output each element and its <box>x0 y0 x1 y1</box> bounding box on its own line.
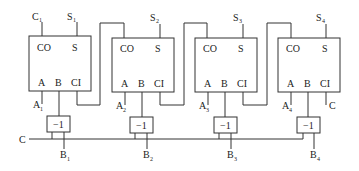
svg-text:4: 4 <box>322 18 325 24</box>
s-port-label: S <box>155 43 161 54</box>
svg-text:3: 3 <box>239 18 242 24</box>
b-port-label: B <box>304 78 311 89</box>
svg-text:1: 1 <box>67 156 70 162</box>
svg-text:1: 1 <box>40 106 43 112</box>
co-port-label: CO <box>203 43 217 54</box>
svg-text:4: 4 <box>289 107 292 113</box>
co-port-label: CO <box>286 43 300 54</box>
svg-text:2: 2 <box>150 156 153 162</box>
b2-input-label: B <box>143 149 150 160</box>
svg-text:3: 3 <box>206 107 209 113</box>
b-port-label: B <box>221 78 228 89</box>
ci-port-label: CI <box>320 78 330 89</box>
svg-text:4: 4 <box>317 156 320 162</box>
s4-output-label: S <box>316 12 322 23</box>
co-port-label: CO <box>37 42 51 53</box>
svg-text:1: 1 <box>73 17 76 23</box>
control-line-label: C <box>19 134 26 145</box>
svg-text:2: 2 <box>123 107 126 113</box>
ci-port-label: CI <box>154 78 164 89</box>
svg-text:2: 2 <box>156 18 159 24</box>
co-port-label: CO <box>120 43 134 54</box>
negate-label: −1 <box>53 119 64 130</box>
negate-label: −1 <box>303 120 314 131</box>
a-port-label: A <box>204 78 212 89</box>
negate-label: −1 <box>136 120 147 131</box>
a-port-label: A <box>287 78 295 89</box>
ci-port-label: CI <box>71 77 81 88</box>
b-port-label: B <box>55 77 62 88</box>
s-port-label: S <box>238 43 244 54</box>
a-port-label: A <box>38 77 46 88</box>
b4-input-label: B <box>310 149 317 160</box>
s-port-label: S <box>322 43 328 54</box>
ci-port-label: CI <box>237 78 247 89</box>
svg-text:1: 1 <box>39 17 42 23</box>
adder-circuit-diagram: CO S A B CI C 1 S 1 A 1 −1 B 1 CO S A B … <box>0 0 359 171</box>
s1-output-label: S <box>67 11 73 22</box>
b1-input-label: B <box>60 149 67 160</box>
b3-input-label: B <box>227 149 234 160</box>
c1-output-label: C <box>32 11 39 22</box>
b-port-label: B <box>138 78 145 89</box>
a-port-label: A <box>121 78 129 89</box>
s2-output-label: S <box>150 12 156 23</box>
svg-text:3: 3 <box>234 156 237 162</box>
control-line: C <box>19 134 303 145</box>
negate-label: −1 <box>220 120 231 131</box>
s-port-label: S <box>72 42 78 53</box>
carry-in-label: C <box>329 100 336 111</box>
s3-output-label: S <box>233 12 239 23</box>
